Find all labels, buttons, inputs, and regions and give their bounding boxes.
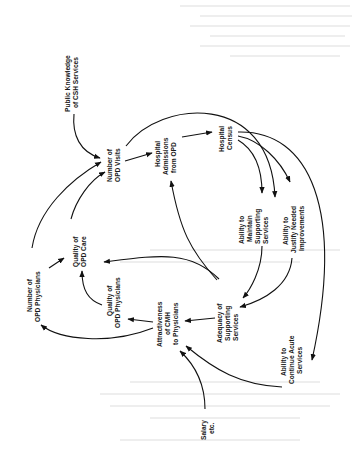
node-label-line: Quality of [106,285,114,316]
node-label-line: Number of [26,278,33,312]
edge-maintain-to-adequacy [243,246,262,298]
node-hospital-census: Hospital Census [218,126,233,152]
node-label-line: Attractiveness [156,301,163,347]
causal-loop-diagram: Public Knowledge of CSH Services Number … [0,0,356,476]
node-label-line: Salary [200,420,208,440]
node-ability-justify: Ability to Justify Needed Improvements [282,206,306,253]
node-label-line: Number of [106,148,113,182]
node-label-line: OPD Care [80,236,87,267]
edge-num-physicians-to-visits [32,162,101,248]
node-label-line: Justify Needed [290,206,298,253]
node-label-line: Improvements [298,206,306,251]
node-label-line: of CMH [164,312,171,335]
edge-attractiveness-to-num-physicians [41,325,153,339]
node-num-physicians: Number of OPD Physicians [26,271,42,322]
edge-justify-to-adequacy [240,258,292,307]
node-label-line: Ability to [238,216,246,244]
node-label-line: to Physicians [172,302,180,345]
edge-admissions-to-census [182,132,212,137]
node-label-line: etc. [208,422,215,434]
node-label-line: Services [296,347,303,374]
node-label-line: Hospital [218,126,226,152]
edge-census-to-maintain [238,140,262,193]
edge-adequacy-to-quality-care [104,257,219,279]
edge-adequacy-to-attractiveness [185,318,215,321]
node-label-line: OPD Physicians [34,271,42,322]
node-label-line: Supporting [224,306,232,341]
edge-salary-to-attractiveness [180,351,205,409]
node-label-line: Quality of [72,236,80,267]
node-label-line: of CSH Services [72,57,79,108]
node-quality-care: Quality of OPD Care [72,236,87,267]
edge-visits-to-admissions [125,153,152,161]
node-label-line: Continue Acute [288,335,295,384]
node-public-knowledge: Public Knowledge of CSH Services [64,55,79,112]
edge-adequacy-to-admissions [171,181,217,280]
node-label-line: Services [232,314,239,341]
node-ability-maintain: Ability to Maintain Supporting Services [238,209,269,244]
node-label-line: Admissions [162,137,169,175]
node-hospital-admissions: Hospital Admissions from OPD [154,137,177,175]
node-attractiveness: Attractiveness of CMH to Physicians [156,301,180,347]
node-label-line: Supporting [254,209,262,244]
node-label-line: OPD Physicians [114,277,122,328]
node-label-line: Services [262,217,269,244]
node-salary: Salary etc. [200,420,215,440]
node-label-line: from OPD [170,142,177,173]
node-ability-acute: Ability to Continue Acute Services [280,335,303,384]
node-label-line: Adequacy of [216,303,224,343]
edge-census-to-justify [238,136,290,182]
node-label-line: Public Knowledge [64,55,72,112]
node-label-line: Ability to [282,217,290,245]
node-opd-visits: Number of OPD Visits [106,148,121,182]
node-quality-physicians: Quality of OPD Physicians [106,277,122,328]
node-adequacy: Adequacy of Supporting Services [216,303,239,343]
edge-quality-physicians-to-quality-care [82,271,102,305]
node-label-line: Maintain [246,215,253,242]
node-label-line: Ability to [280,348,288,376]
edge-attractiveness-to-quality-physicians [128,319,153,322]
edge-public-to-visits [74,114,100,158]
node-label-line: Census [226,126,233,150]
edge-num-physicians-to-quality-care [49,258,64,268]
node-label-line: OPD Visits [114,148,121,182]
node-label-line: Hospital [154,141,162,167]
